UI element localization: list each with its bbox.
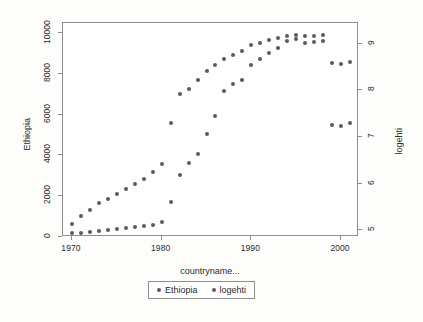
- x-tick-label: 2000: [330, 243, 349, 253]
- data-point: [151, 170, 155, 174]
- x-tick-label: 1990: [241, 243, 260, 253]
- data-point: [339, 62, 343, 66]
- data-point: [160, 162, 164, 166]
- data-point: [213, 114, 217, 118]
- data-point: [124, 187, 128, 191]
- chart-legend: Ethiopia logehti: [148, 281, 255, 299]
- y-tick-right: [358, 89, 362, 90]
- data-points-layer: [63, 23, 357, 235]
- data-point: [258, 57, 262, 61]
- data-point: [321, 39, 325, 43]
- data-point: [285, 39, 289, 43]
- y-tick-left: [58, 236, 62, 237]
- data-point: [115, 227, 119, 231]
- data-point: [312, 34, 316, 38]
- y-tick-label-left: 2000: [40, 179, 54, 211]
- y-tick-label-right: 8: [365, 81, 377, 97]
- data-point: [222, 89, 226, 93]
- legend-item-logehti[interactable]: logehti: [212, 285, 247, 295]
- chart-canvas: Ethiopia logehti countryname... 02000400…: [0, 0, 423, 322]
- data-point: [267, 38, 271, 42]
- data-point: [178, 173, 182, 177]
- data-point: [240, 78, 244, 82]
- y-tick-label-left: 4000: [40, 138, 54, 170]
- y-tick-right: [358, 183, 362, 184]
- data-point: [231, 53, 235, 57]
- data-point: [267, 51, 271, 55]
- data-point: [79, 231, 83, 235]
- data-point: [294, 33, 298, 37]
- data-point: [106, 197, 110, 201]
- data-point: [70, 231, 74, 235]
- legend-item-ethiopia[interactable]: Ethiopia: [157, 285, 198, 295]
- data-point: [196, 78, 200, 82]
- data-point: [330, 61, 334, 65]
- data-point: [312, 40, 316, 44]
- data-point: [222, 57, 226, 61]
- y-tick-right: [358, 229, 362, 230]
- data-point: [339, 124, 343, 128]
- data-point: [303, 34, 307, 38]
- data-point: [151, 223, 155, 227]
- data-point: [330, 123, 334, 127]
- data-point: [97, 201, 101, 205]
- data-point: [178, 92, 182, 96]
- x-tick: [340, 236, 341, 240]
- data-point: [169, 200, 173, 204]
- data-point: [160, 220, 164, 224]
- data-point: [213, 63, 217, 67]
- y-tick-label-left: 8000: [40, 57, 54, 89]
- data-point: [142, 177, 146, 181]
- y-tick-label-right: 7: [365, 128, 377, 144]
- legend-label: logehti: [220, 285, 247, 295]
- y-tick-label-right: 5: [365, 221, 377, 237]
- data-point: [70, 222, 74, 226]
- legend-marker-icon: [212, 288, 216, 292]
- data-point: [97, 229, 101, 233]
- x-tick: [71, 236, 72, 240]
- legend-label: Ethiopia: [165, 285, 198, 295]
- data-point: [133, 225, 137, 229]
- data-point: [249, 63, 253, 67]
- data-point: [205, 132, 209, 136]
- data-point: [258, 41, 262, 45]
- y-tick-right: [358, 136, 362, 137]
- data-point: [276, 46, 280, 50]
- data-point: [187, 161, 191, 165]
- data-point: [124, 226, 128, 230]
- y-tick-label-left: 0: [40, 220, 54, 252]
- y-tick-label-right: 9: [365, 35, 377, 51]
- data-point: [321, 33, 325, 37]
- data-point: [169, 121, 173, 125]
- data-point: [348, 121, 352, 125]
- data-point: [348, 60, 352, 64]
- data-point: [240, 49, 244, 53]
- x-axis-title: countryname...: [180, 266, 240, 276]
- data-point: [276, 36, 280, 40]
- data-point: [303, 41, 307, 45]
- data-point: [79, 214, 83, 218]
- legend-marker-icon: [157, 288, 161, 292]
- data-point: [285, 34, 289, 38]
- y-axis-left-title: Ethiopia: [22, 118, 32, 151]
- y-tick-label-left: 10000: [40, 16, 54, 48]
- data-point: [88, 208, 92, 212]
- x-tick-label: 1970: [61, 243, 80, 253]
- x-tick-label: 1980: [151, 243, 170, 253]
- y-tick-label-right: 6: [365, 175, 377, 191]
- data-point: [205, 69, 209, 73]
- data-point: [88, 230, 92, 234]
- data-point: [106, 228, 110, 232]
- data-point: [231, 82, 235, 86]
- y-tick-right: [358, 43, 362, 44]
- x-tick: [161, 236, 162, 240]
- plot-area: [62, 22, 358, 236]
- data-point: [294, 37, 298, 41]
- data-point: [187, 87, 191, 91]
- data-point: [196, 152, 200, 156]
- data-point: [133, 182, 137, 186]
- y-tick-label-left: 6000: [40, 98, 54, 130]
- data-point: [249, 43, 253, 47]
- y-axis-right-title: logehti: [394, 128, 404, 155]
- data-point: [115, 192, 119, 196]
